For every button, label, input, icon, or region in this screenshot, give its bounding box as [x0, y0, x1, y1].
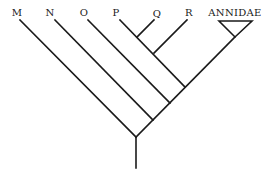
- taxon-label-q: Q: [153, 8, 162, 20]
- taxon-label-p: P: [112, 7, 119, 19]
- branch-o: [88, 20, 170, 103]
- taxon-label-annidae: ANNIDAE: [208, 7, 261, 19]
- taxon-label-m: M: [12, 7, 23, 19]
- cladogram-lines: [0, 0, 266, 178]
- branch-r: [154, 20, 187, 53]
- taxon-label-r: R: [185, 7, 193, 19]
- branch-q: [137, 20, 154, 37]
- branch-m: [20, 20, 136, 137]
- taxon-label-n: N: [45, 7, 54, 19]
- branch-p: [120, 20, 185, 87]
- annidae-triangle: [219, 21, 252, 37]
- taxon-label-o: O: [80, 7, 89, 19]
